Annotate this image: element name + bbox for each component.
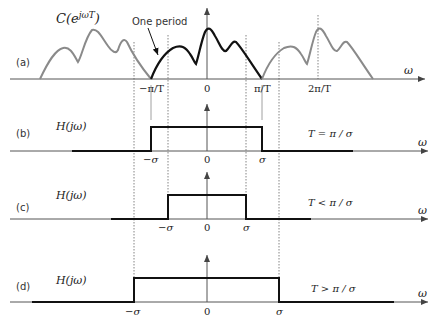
panel-b: (b) H(jω) −σ 0 σ T = π / σ ω <box>10 104 428 165</box>
aliasing-diagram: One period (a) C(ejωT) ω −π/T 0 π/T 2π/T… <box>0 0 437 320</box>
one-period-label: One period <box>132 16 187 27</box>
tick-zero: 0 <box>204 306 210 317</box>
tick-sigma: σ <box>259 154 267 165</box>
panel-c-label: (c) <box>16 202 29 213</box>
tick-sigma: σ <box>276 306 284 317</box>
one-period-arrow-icon <box>148 28 158 55</box>
tick-neg-sigma: −σ <box>125 306 141 317</box>
panel-a: One period (a) C(ejωT) ω −π/T 0 π/T 2π/T <box>10 8 425 94</box>
spectrum-copy-left <box>40 30 151 79</box>
function-label-h: H(jω) <box>55 274 87 287</box>
tick-pi-over-t: π/T <box>254 83 271 94</box>
tick-neg-sigma: −σ <box>143 154 159 165</box>
condition-label: T < π / σ <box>308 197 354 208</box>
function-label-c: C(ejωT) <box>56 10 100 26</box>
tick-sigma: σ <box>243 222 251 233</box>
panel-c: (c) H(jω) −σ 0 σ T < π / σ ω <box>10 172 428 233</box>
panel-d-label: (d) <box>16 281 30 292</box>
tick-zero: 0 <box>204 222 210 233</box>
panel-a-label: (a) <box>16 57 30 68</box>
tick-zero: 0 <box>204 154 210 165</box>
panel-b-label: (b) <box>16 128 30 139</box>
panel-d: (d) H(jω) −σ 0 σ T > π / σ ω <box>10 255 428 317</box>
filter-response <box>111 195 311 219</box>
omega-axis-label: ω <box>418 287 427 300</box>
tick-neg-sigma: −σ <box>158 222 174 233</box>
tick-neg-pi-over-t: −π/T <box>139 83 164 94</box>
omega-axis-label: ω <box>418 204 427 217</box>
function-label-h: H(jω) <box>55 120 87 133</box>
tick-2pi-over-t: 2π/T <box>308 83 331 94</box>
omega-axis-label: ω <box>418 136 427 149</box>
omega-axis-label: ω <box>404 64 413 77</box>
spectrum-copy-right <box>262 29 373 79</box>
function-label-h: H(jω) <box>55 189 87 202</box>
condition-label: T > π / σ <box>311 283 357 294</box>
tick-zero: 0 <box>204 83 210 94</box>
condition-label: T = π / σ <box>308 128 354 139</box>
